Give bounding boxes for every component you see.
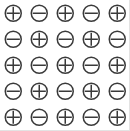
symbol-grid — [0, 0, 130, 130]
minus-icon — [0, 26, 26, 52]
plus-icon — [78, 78, 104, 104]
plus-icon — [52, 0, 78, 26]
plus-glyph — [108, 108, 127, 127]
plus-glyph — [4, 56, 23, 75]
minus-icon — [52, 78, 78, 104]
minus-glyph — [56, 30, 75, 49]
minus-glyph — [108, 82, 127, 101]
minus-glyph — [4, 82, 23, 101]
minus-icon — [26, 52, 52, 78]
plus-glyph — [56, 4, 75, 23]
plus-icon — [0, 0, 26, 26]
plus-glyph — [30, 30, 49, 49]
plus-glyph — [108, 56, 127, 75]
minus-glyph — [30, 4, 49, 23]
plus-icon — [104, 104, 130, 130]
minus-glyph — [4, 30, 23, 49]
minus-icon — [52, 26, 78, 52]
pattern-canvas — [0, 0, 130, 131]
minus-glyph — [30, 108, 49, 127]
plus-glyph — [82, 30, 101, 49]
minus-glyph — [82, 4, 101, 23]
minus-icon — [78, 0, 104, 26]
plus-icon — [78, 26, 104, 52]
minus-glyph — [82, 108, 101, 127]
plus-glyph — [56, 108, 75, 127]
plus-glyph — [4, 4, 23, 23]
minus-glyph — [30, 56, 49, 75]
plus-glyph — [4, 108, 23, 127]
plus-icon — [0, 104, 26, 130]
plus-glyph — [82, 82, 101, 101]
minus-glyph — [56, 82, 75, 101]
plus-icon — [104, 0, 130, 26]
minus-glyph — [82, 56, 101, 75]
minus-icon — [104, 78, 130, 104]
plus-glyph — [56, 56, 75, 75]
minus-icon — [0, 78, 26, 104]
minus-glyph — [108, 30, 127, 49]
minus-icon — [104, 26, 130, 52]
plus-icon — [52, 104, 78, 130]
plus-icon — [26, 26, 52, 52]
minus-icon — [26, 104, 52, 130]
plus-icon — [26, 78, 52, 104]
plus-icon — [104, 52, 130, 78]
minus-icon — [78, 104, 104, 130]
plus-glyph — [108, 4, 127, 23]
plus-icon — [52, 52, 78, 78]
plus-glyph — [30, 82, 49, 101]
minus-icon — [78, 52, 104, 78]
plus-icon — [0, 52, 26, 78]
minus-icon — [26, 0, 52, 26]
